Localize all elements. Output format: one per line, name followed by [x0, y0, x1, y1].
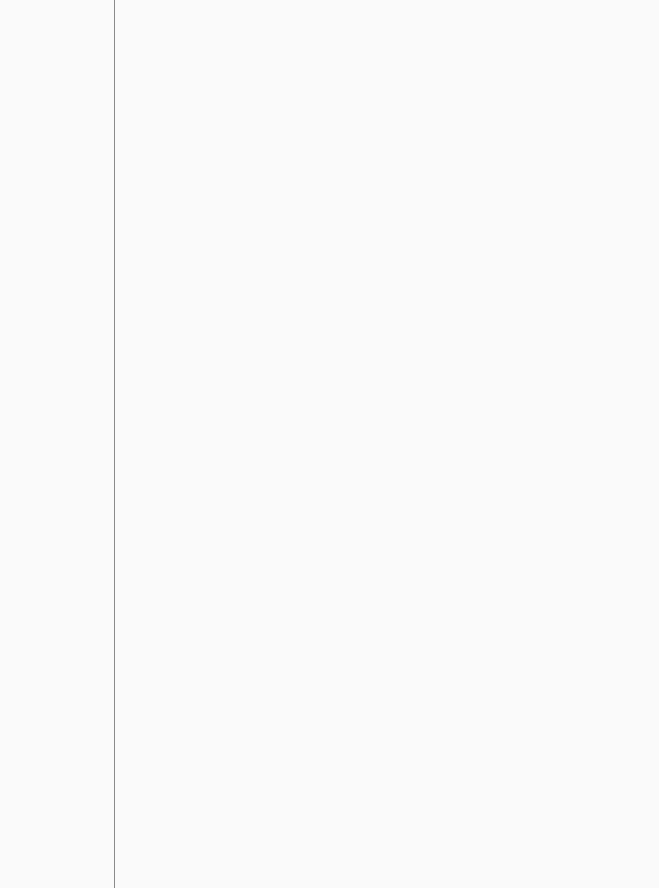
margin-line: [114, 0, 115, 888]
lined-paper: [0, 0, 659, 888]
